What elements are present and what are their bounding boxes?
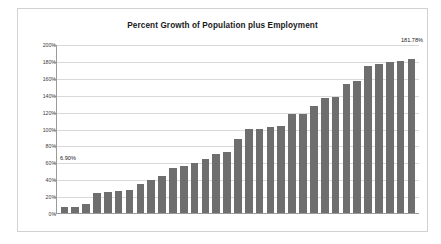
bar [277,126,285,213]
chart-title: Percent Growth of Population plus Employ… [18,21,427,30]
chart-frame: Percent Growth of Population plus Employ… [17,8,428,232]
last-value-label: 181.78% [401,37,423,43]
bar [288,114,296,213]
bar [147,180,155,213]
bar [353,81,361,213]
y-axis-tick-label: 200% [22,42,56,48]
bar [245,129,253,213]
y-axis-tick-label: 60% [22,160,56,166]
bar [158,176,166,213]
y-axis-tick-label: 40% [22,177,56,183]
bar [202,159,210,213]
bar [256,129,264,213]
bar [234,139,242,213]
y-axis-tick-label: 120% [22,110,56,116]
bar [191,163,199,213]
bar [115,191,123,213]
y-axis-tick-label: 180% [22,59,56,65]
bar [104,192,112,213]
first-value-label: 6.90% [60,155,76,161]
bar-series [57,45,419,213]
bar [310,106,318,213]
bar [386,62,394,213]
bar [375,64,383,213]
bar [71,207,79,213]
bar [397,61,405,213]
y-axis-tick-label: 0% [22,211,56,217]
bar [267,127,275,213]
bar [321,98,329,213]
bar [212,154,220,213]
y-axis: 200%180%160%140%120%100%80%60%40%20%0% [18,45,56,214]
bar [82,204,90,213]
bar [61,207,69,213]
bar [169,168,177,213]
y-axis-tick-label: 100% [22,127,56,133]
y-axis-tick-label: 20% [22,194,56,200]
y-axis-tick-label: 80% [22,143,56,149]
bar [93,193,101,213]
plot-area [56,45,419,214]
y-axis-tick-label: 140% [22,93,56,99]
y-axis-tick-label: 160% [22,76,56,82]
bar [137,184,145,213]
bar [408,59,416,213]
bar [343,84,351,213]
bar [364,66,372,213]
bar [299,114,307,213]
bar [126,190,134,213]
bar [180,166,188,213]
bar [223,152,231,213]
bar [332,97,340,213]
y-axis-tick-mark [53,214,56,215]
